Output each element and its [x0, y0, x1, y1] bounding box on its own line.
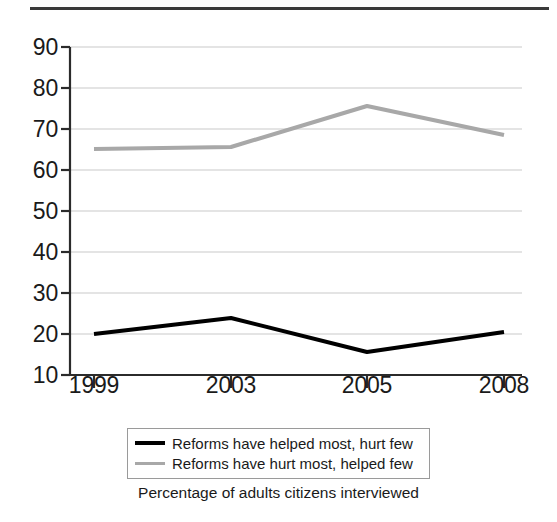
- black-line-swatch-icon: [135, 441, 165, 445]
- legend-label-helped-most-hurt-few: Reforms have helped most, hurt few: [172, 436, 413, 451]
- chart-caption: Percentage of adults citizens interviewe…: [0, 485, 557, 501]
- y-axis-ticks: [61, 47, 70, 375]
- series-line-hurt-most-helped-few: [94, 106, 504, 149]
- plot-canvas: [0, 22, 557, 394]
- x-tick-label-2008: 2008: [479, 374, 529, 397]
- line-chart: 90 80 70 60 50 40 30 20 10: [0, 22, 557, 394]
- top-divider-rule: [30, 7, 549, 10]
- legend-label-hurt-most-helped-few: Reforms have hurt most, helped few: [172, 456, 413, 471]
- legend-item-helped-most-hurt-few: Reforms have helped most, hurt few: [135, 433, 420, 453]
- legend-item-hurt-most-helped-few: Reforms have hurt most, helped few: [135, 453, 420, 473]
- gridlines: [70, 47, 522, 334]
- series-line-helped-most-hurt-few: [94, 318, 504, 352]
- x-tick-label-2005: 2005: [342, 374, 392, 397]
- gray-line-swatch-icon: [135, 462, 165, 465]
- chart-legend: Reforms have helped most, hurt few Refor…: [127, 428, 430, 479]
- x-tick-label-1999: 1999: [69, 374, 119, 397]
- x-axis-tick-labels: 1999 2003 2005 2008: [0, 374, 557, 408]
- x-tick-label-2003: 2003: [206, 374, 256, 397]
